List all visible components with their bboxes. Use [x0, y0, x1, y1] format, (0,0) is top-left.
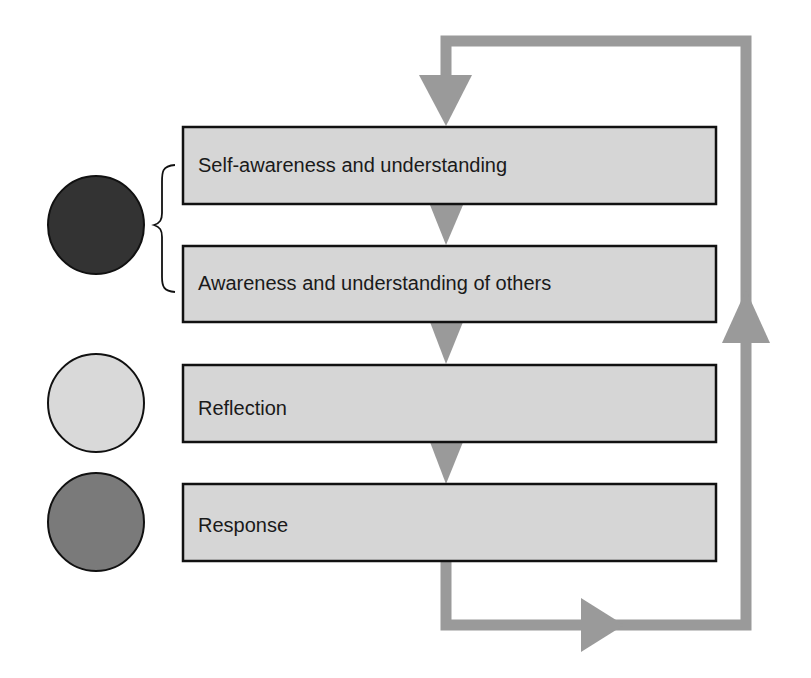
dark-circle-marker [48, 176, 144, 274]
arrow-down-icon [430, 442, 463, 484]
medium-circle-marker [48, 473, 144, 571]
arrow-up-right-icon [722, 290, 770, 343]
step-label: Response [198, 514, 288, 537]
curly-brace-icon [154, 165, 175, 292]
arrow-down-top-icon [419, 75, 472, 126]
flow-diagram [0, 0, 811, 678]
arrow-right-bottom-icon [581, 598, 624, 652]
arrow-down-icon [430, 322, 463, 364]
light-circle-marker [48, 354, 144, 452]
step-label: Reflection [198, 397, 287, 420]
arrow-down-icon [430, 205, 463, 245]
step-label: Self-awareness and understanding [198, 154, 507, 177]
step-label: Awareness and understanding of others [198, 272, 551, 295]
